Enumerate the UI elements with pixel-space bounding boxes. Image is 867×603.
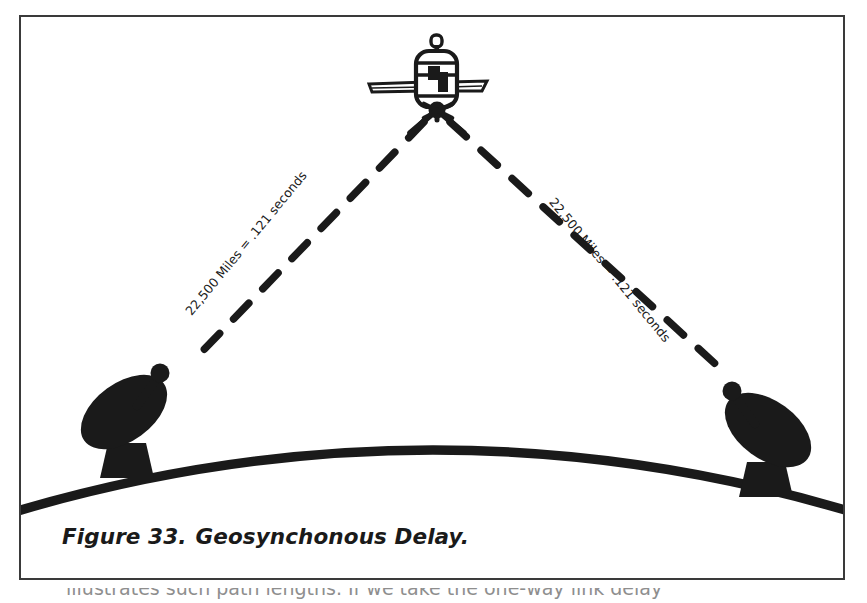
figure-caption-number: Figure 33. — [62, 524, 187, 549]
figure-border — [19, 15, 845, 580]
figure-caption-title: Geosynchonous Delay. — [196, 524, 469, 549]
figure-caption: Figure 33.Geosynchonous Delay. — [62, 524, 469, 549]
clipped-body-text-line: illustrates such path lengths. If we tak… — [66, 588, 662, 599]
figure-page: 22,500 Miles = .121 seconds 22,500 Miles… — [0, 0, 867, 603]
clipped-body-text: illustrates such path lengths. If we tak… — [0, 588, 867, 603]
